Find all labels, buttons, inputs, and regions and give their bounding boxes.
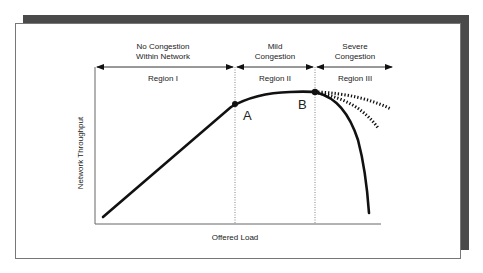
region-1-label: Region I bbox=[148, 74, 178, 83]
x-axis-label: Offered Load bbox=[212, 233, 259, 242]
region-3-label: Region III bbox=[338, 74, 372, 83]
region-3-title-line1: Severe bbox=[342, 42, 368, 51]
axes bbox=[95, 67, 381, 224]
y-axis-label: Network Throughput bbox=[76, 116, 85, 189]
region-3-title-line2: Congestion bbox=[335, 52, 375, 61]
point-b-label: B bbox=[298, 97, 307, 112]
region-2-title-line1: Mild bbox=[268, 42, 283, 51]
point-b-marker bbox=[312, 89, 318, 95]
point-a-marker bbox=[232, 101, 238, 107]
region-2-label: Region II bbox=[259, 74, 291, 83]
congestion-diagram: No Congestion Within Network Mild Conges… bbox=[0, 0, 483, 273]
region-2-title-line2: Congestion bbox=[255, 52, 295, 61]
region-1-title-line2: Within Network bbox=[136, 52, 191, 61]
throughput-curve bbox=[103, 92, 369, 217]
point-a-label: A bbox=[243, 108, 252, 123]
dotted-curve-lower bbox=[318, 93, 378, 128]
region-1-title-line1: No Congestion bbox=[137, 42, 190, 51]
